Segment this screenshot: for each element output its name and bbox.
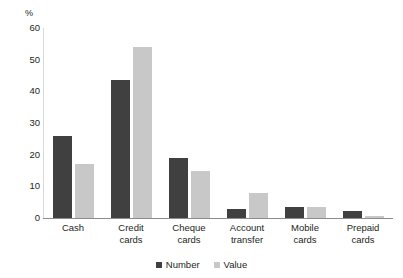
y-tick-label: 0 xyxy=(4,213,40,223)
y-axis-tick-labels: 60 50 40 30 20 10 0 xyxy=(0,0,40,278)
x-axis-line xyxy=(43,218,393,219)
y-tick-label: 20 xyxy=(4,150,40,160)
bar-number xyxy=(111,80,130,218)
legend-label: Value xyxy=(224,259,248,270)
category-label-line: cards xyxy=(102,234,160,246)
category-label-line: transfer xyxy=(218,234,276,246)
bar-value xyxy=(365,216,384,218)
category-label-line: Prepaid xyxy=(334,222,392,234)
category-label-line: cards xyxy=(160,234,218,246)
category-label-line: Account xyxy=(218,222,276,234)
legend-label: Number xyxy=(166,259,200,270)
x-axis-category-labels: CashCreditcardsChequecardsAccounttransfe… xyxy=(44,222,392,246)
bar-group xyxy=(218,28,276,218)
bar-value xyxy=(75,164,94,218)
category-label-line: cards xyxy=(276,234,334,246)
y-tick-label: 60 xyxy=(4,23,40,33)
y-tick-label: 50 xyxy=(4,55,40,65)
bar-number xyxy=(343,211,362,218)
category-label-line: Mobile xyxy=(276,222,334,234)
bar-value xyxy=(191,171,210,219)
category-label: Mobilecards xyxy=(276,222,334,246)
bar-chart: % 60 50 40 30 20 10 0 CashCreditcardsChe… xyxy=(0,0,403,278)
y-tick-label: 40 xyxy=(4,86,40,96)
bar-value xyxy=(249,193,268,218)
bar-group xyxy=(334,28,392,218)
bar-value xyxy=(133,47,152,218)
y-tick-label: 30 xyxy=(4,118,40,128)
category-label: Accounttransfer xyxy=(218,222,276,246)
bar-group xyxy=(102,28,160,218)
category-label: Prepaidcards xyxy=(334,222,392,246)
bar-group xyxy=(44,28,102,218)
bar-number xyxy=(53,136,72,218)
bar-group xyxy=(160,28,218,218)
category-label: Cash xyxy=(44,222,102,246)
bar-group xyxy=(276,28,334,218)
bar-groups xyxy=(44,28,392,218)
legend-swatch-icon xyxy=(156,262,162,268)
category-label-line: cards xyxy=(334,234,392,246)
bar-value xyxy=(307,207,326,218)
bar-number xyxy=(169,158,188,218)
legend-item-number[interactable]: Number xyxy=(156,259,200,270)
bar-number xyxy=(285,207,304,218)
category-label: Creditcards xyxy=(102,222,160,246)
category-label-line: Credit xyxy=(102,222,160,234)
category-label: Chequecards xyxy=(160,222,218,246)
y-tick-label: 10 xyxy=(4,181,40,191)
chart-legend: NumberValue xyxy=(0,259,403,270)
category-label-line: Cheque xyxy=(160,222,218,234)
bar-number xyxy=(227,209,246,219)
legend-item-value[interactable]: Value xyxy=(214,259,248,270)
legend-swatch-icon xyxy=(214,262,220,268)
category-label-line: Cash xyxy=(44,222,102,234)
